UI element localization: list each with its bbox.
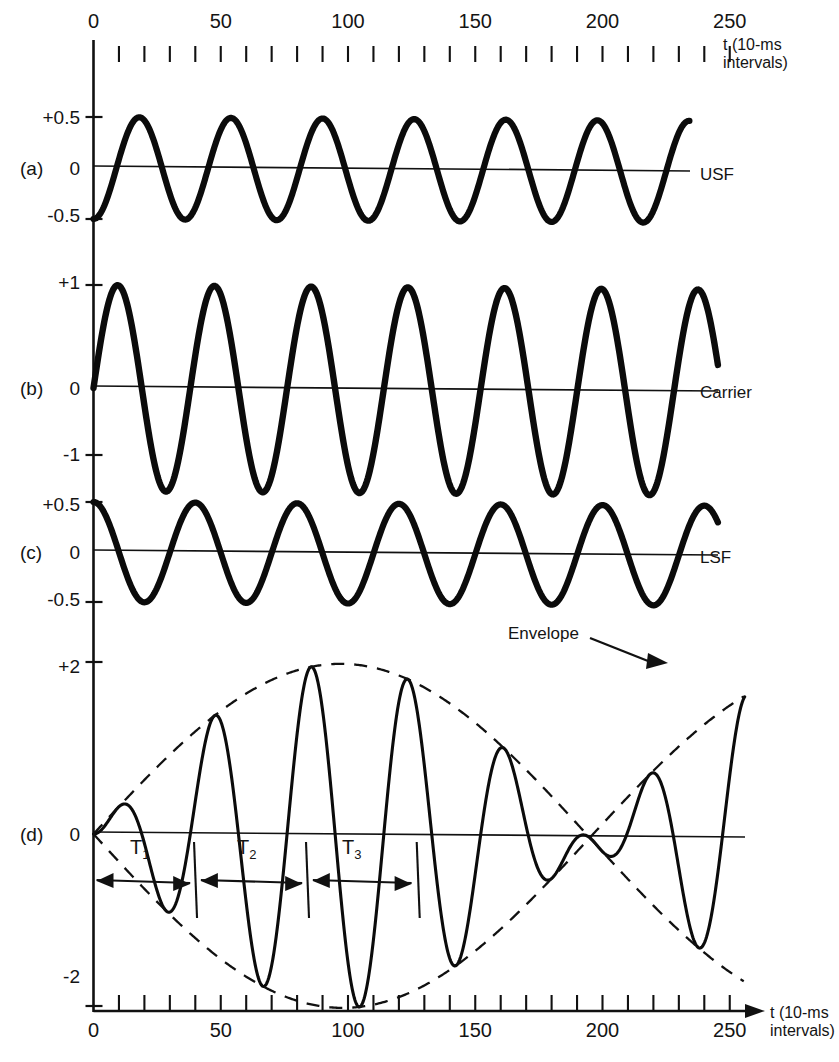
panel-c-series-label: LSF <box>700 548 731 568</box>
period-arrow-left-2 <box>201 873 218 888</box>
panel-b-series-label: Carrier <box>700 383 752 403</box>
panel-b-ytick-bottom: -1 <box>20 444 80 466</box>
am-waveform-figure: 050100150200250 050100150200250 <box>0 0 839 1062</box>
panel-d-ytick-top: +2 <box>20 656 80 678</box>
panel-d-ytick-zero: 0 <box>20 824 80 846</box>
bottom-axis-tick-label: 150 <box>459 1019 492 1041</box>
axis-arrowhead <box>745 1004 765 1018</box>
panel-b-ytick-top: +1 <box>20 272 80 294</box>
period-label-t1: T1 <box>130 836 149 863</box>
top-axis-tick-label: 0 <box>88 10 99 32</box>
lsf-waveform <box>94 502 718 605</box>
top-axis-tick-label: 100 <box>331 10 364 32</box>
top-axis-tick-label: 250 <box>713 10 746 32</box>
top-axis-caption: t (10-ms intervals) <box>723 36 788 73</box>
bottom-time-axis: 050100150200250 <box>88 995 765 1041</box>
bottom-axis-tick-label: 100 <box>331 1019 364 1041</box>
bottom-axis-caption-line1: t (10-ms <box>770 1004 829 1021</box>
panel-c-ytick-zero: 0 <box>20 542 80 564</box>
envelope-upper <box>94 664 744 838</box>
period-label-t3: T3 <box>342 836 361 863</box>
period-separator-2 <box>306 842 309 918</box>
top-axis-tick-label: 150 <box>459 10 492 32</box>
bottom-axis-caption: t (10-ms intervals) <box>770 1004 835 1041</box>
bottom-axis-caption-line2: intervals) <box>770 1022 835 1039</box>
envelope-leader-arrow <box>646 653 668 669</box>
panel-c-ytick-top: +0.5 <box>20 494 80 516</box>
period-arrow-left-3 <box>313 873 330 888</box>
envelope-label: Envelope <box>508 624 579 644</box>
top-axis-caption-line2: intervals) <box>723 54 788 71</box>
bottom-axis-tick-label: 0 <box>88 1019 99 1041</box>
carrier-waveform <box>94 285 718 495</box>
bottom-axis-tick-label: 200 <box>586 1019 619 1041</box>
period-arrow-right-2 <box>285 876 302 891</box>
panel-a-ytick-bottom: -0.5 <box>20 205 80 227</box>
top-axis-caption-line1: t (10-ms <box>723 36 782 53</box>
panel-a-series-label: USF <box>700 165 734 185</box>
top-time-axis: 050100150200250 <box>88 10 747 62</box>
period-separator-3 <box>417 842 420 918</box>
period-arrow-right-3 <box>395 876 412 891</box>
panel-b-ytick-zero: 0 <box>20 378 80 400</box>
panel-a-ytick-top: +0.5 <box>20 107 80 129</box>
period-label-t2: T2 <box>237 836 256 863</box>
period-separator-1 <box>194 842 197 918</box>
panel-c-ytick-bottom: -0.5 <box>20 589 80 611</box>
period-arrow-left-1 <box>97 873 114 888</box>
panel-group <box>86 117 746 1008</box>
panel-d-ytick-bottom: -2 <box>20 966 80 988</box>
top-axis-tick-label: 200 <box>586 10 619 32</box>
top-axis-tick-label: 50 <box>210 10 232 32</box>
bottom-axis-tick-label: 250 <box>713 1019 746 1041</box>
envelope-lower <box>94 834 744 1008</box>
panel-a-ytick-zero: 0 <box>20 158 80 180</box>
bottom-axis-tick-label: 50 <box>210 1019 232 1041</box>
